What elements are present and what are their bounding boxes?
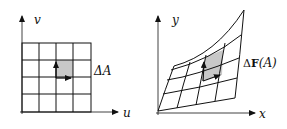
u-label: u — [123, 106, 131, 120]
highlighted-cell — [56, 60, 73, 77]
y-label: y — [171, 13, 179, 27]
delta-a-label: ΔA — [93, 64, 112, 78]
a-argument: (A) — [259, 56, 277, 70]
left-diagram: v u ΔA — [20, 13, 131, 120]
bold-f: F — [251, 57, 259, 70]
right-diagram: y x ΔF(A) — [156, 10, 277, 121]
x-label: x — [259, 107, 266, 121]
v-label: v — [34, 13, 41, 27]
change-of-variables-figure: v u ΔA y x ΔF(A) — [0, 0, 287, 129]
delta-f-a-label: ΔF(A) — [243, 56, 277, 70]
xy-warped-grid — [158, 10, 244, 111]
delta-symbol: Δ — [243, 57, 251, 70]
